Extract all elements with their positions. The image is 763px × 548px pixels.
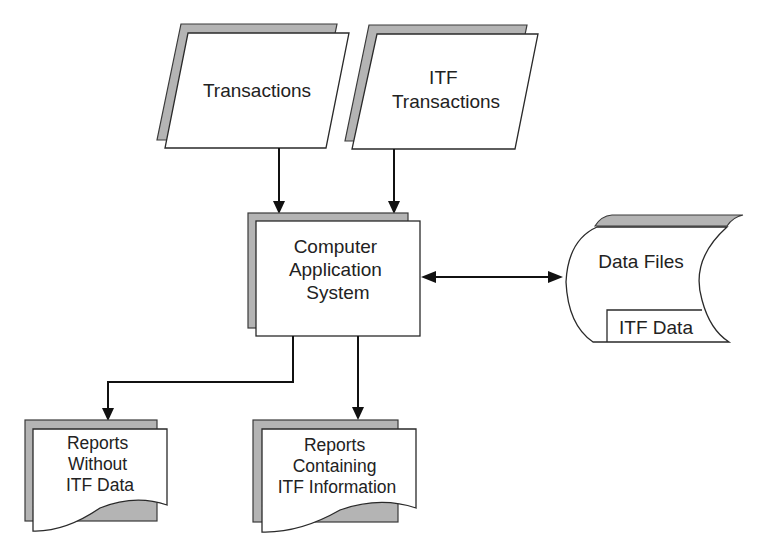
node-reports-without-itf-data: Reports Without ITF Data [25,420,167,531]
edge-system-to-reports-containing [352,336,364,420]
arrowhead-down-icon [352,407,364,420]
arrowhead-right-icon [548,271,563,283]
arrowhead-left-icon [421,271,436,283]
node-computer-application-system: Computer Application System [248,213,420,336]
data-files-label: Data Files [598,251,684,272]
edge-transactions-to-system [273,148,285,214]
edge-itf-transactions-to-system [388,149,400,214]
arrowhead-down-icon [388,201,400,214]
itf-flowchart: Transactions ITF Transactions Computer A… [0,0,763,548]
data-files-shadow [595,215,743,226]
edge-system-data-files [421,271,563,283]
reports-without-label: Reports Without ITF Data [66,433,134,495]
node-transactions: Transactions [157,24,349,148]
node-itf-transactions: ITF Transactions [345,25,538,149]
node-data-files: Data Files ITF Data [566,215,743,342]
arrowhead-down-icon [273,201,285,214]
arrowhead-down-icon [102,408,114,421]
edge-system-to-reports-without [102,336,293,421]
transactions-label: Transactions [203,80,311,101]
node-reports-containing-itf-information: Reports Containing ITF Information [253,420,416,532]
itf-data-label: ITF Data [619,317,693,338]
